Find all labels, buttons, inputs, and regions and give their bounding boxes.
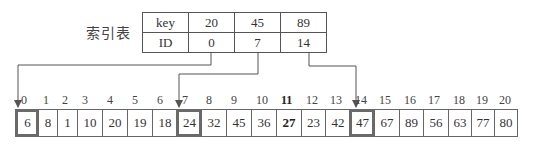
- array-index-label: 5: [132, 93, 138, 108]
- arrow-id7-to-index7: [179, 53, 258, 107]
- array-cell: 77: [471, 110, 494, 136]
- array-cell: 89: [399, 110, 423, 136]
- array-cells: 681102019182432453627234247678956637780: [16, 109, 518, 137]
- array-index-label: 0: [21, 93, 27, 108]
- array-cell: 56: [423, 110, 448, 136]
- array-index-label: 8: [206, 93, 212, 108]
- array-index-label: 2: [62, 93, 68, 108]
- array-cell: 18: [152, 110, 177, 136]
- array-index-label: 12: [306, 93, 318, 108]
- array-cell: 8: [38, 110, 57, 136]
- array-index-label: 16: [404, 93, 416, 108]
- array-cell: 10: [77, 110, 102, 136]
- array-index-label: 20: [499, 93, 511, 108]
- array-index-label: 4: [107, 93, 113, 108]
- array-index-label: 6: [157, 93, 163, 108]
- array-cell: 36: [251, 110, 276, 136]
- array-cell: 63: [448, 110, 471, 136]
- array-cell: 19: [127, 110, 152, 136]
- array-cell: 80: [494, 110, 518, 136]
- array-index-label: 14: [355, 93, 367, 108]
- array-index-label: 17: [428, 93, 440, 108]
- array-cell: 6: [16, 110, 38, 136]
- array-index-label: 13: [330, 93, 342, 108]
- array-index-label: 11: [281, 93, 292, 108]
- array-cell: 24: [177, 110, 201, 136]
- array-cell: 1: [57, 110, 77, 136]
- array-cell: 23: [301, 110, 325, 136]
- array-cell: 27: [276, 110, 301, 136]
- array-cell: 67: [374, 110, 399, 136]
- array-index-label: 18: [453, 93, 465, 108]
- array-index-label: 7: [182, 93, 188, 108]
- array-index-label: 19: [476, 93, 488, 108]
- array-index-label: 9: [231, 93, 237, 108]
- array-cell: 32: [201, 110, 226, 136]
- array-cell: 20: [102, 110, 127, 136]
- array-index-label: 10: [256, 93, 268, 108]
- array-cell: 42: [325, 110, 350, 136]
- array-cell: 45: [226, 110, 251, 136]
- array-index-label: 1: [43, 93, 49, 108]
- array-index-label: 3: [82, 93, 88, 108]
- array-cell: 47: [350, 110, 374, 136]
- array-index-label: 15: [379, 93, 391, 108]
